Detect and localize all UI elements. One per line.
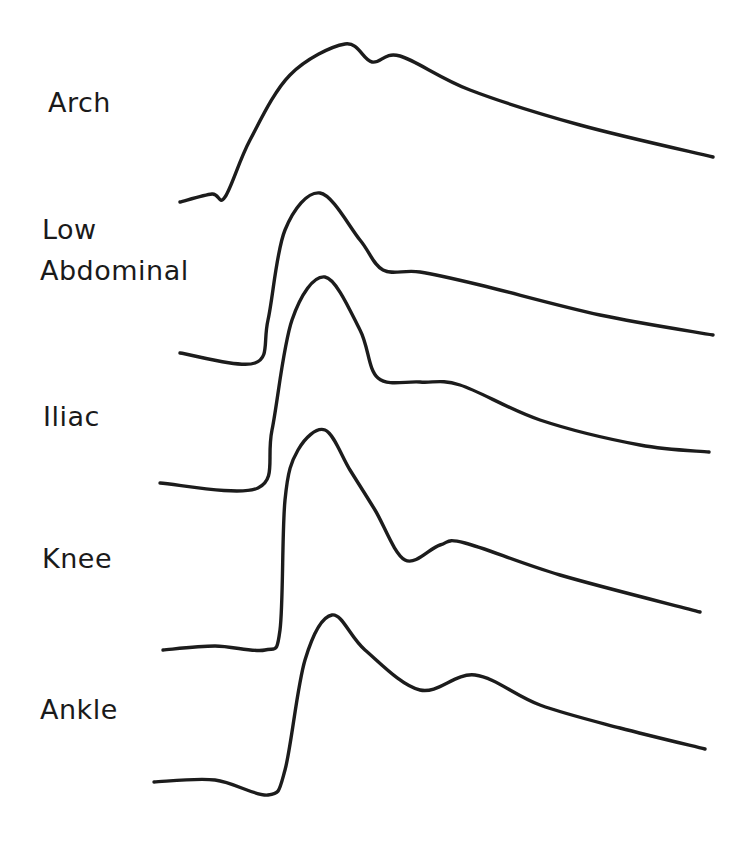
waveform-figure: Arch Low Abdominal Iliac Knee Ankle [0,0,746,857]
waveform-arch [180,44,713,202]
waveform-knee [163,429,700,650]
waveform-iliac [160,277,709,491]
waveform-low-abdominal [180,193,713,364]
waveform-ankle [154,615,705,795]
waveforms-canvas [0,0,746,857]
